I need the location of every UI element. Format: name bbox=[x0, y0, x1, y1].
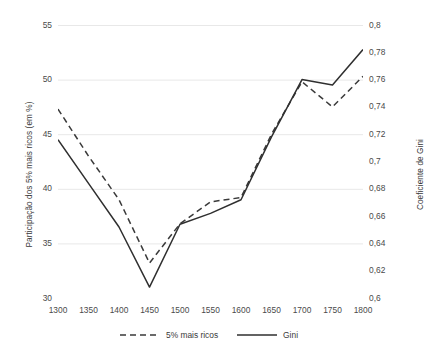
y-axis-left-tick-label: 40 bbox=[26, 183, 52, 193]
y-axis-right-tick-label: 0,62 bbox=[369, 265, 403, 275]
y-axis-left-tick-label: 45 bbox=[26, 129, 52, 139]
legend-label-5-mais-ricos: 5% mais ricos bbox=[166, 330, 218, 340]
gridlines bbox=[58, 26, 363, 299]
x-axis-tick-label: 1500 bbox=[163, 305, 197, 315]
y-axis-right-tick-label: 0,7 bbox=[369, 156, 403, 166]
legend-swatch-solid-icon bbox=[236, 330, 278, 340]
x-axis-tick-label: 1700 bbox=[285, 305, 319, 315]
legend-item-gini: Gini bbox=[236, 330, 298, 340]
y-axis-left-tick-label: 55 bbox=[26, 20, 52, 30]
y-axis-right-tick-label: 0,64 bbox=[369, 238, 403, 248]
legend-label-gini: Gini bbox=[283, 330, 298, 340]
y-axis-right-title: Coeficiente de Gini bbox=[416, 90, 425, 260]
x-axis-tick-label: 1750 bbox=[316, 305, 350, 315]
y-axis-right-tick-label: 0,72 bbox=[369, 129, 403, 139]
y-axis-left-title: Participação dos 5% mais ricos (em %) bbox=[25, 90, 34, 260]
y-axis-left-tick-label: 35 bbox=[26, 238, 52, 248]
y-axis-right-tick-label: 0,68 bbox=[369, 183, 403, 193]
series-line bbox=[58, 50, 363, 288]
plot-area bbox=[58, 25, 363, 298]
x-axis-tick-label: 1800 bbox=[346, 305, 380, 315]
y-axis-right-tick-label: 0,8 bbox=[369, 20, 403, 30]
x-axis-tick-label: 1600 bbox=[224, 305, 258, 315]
chart-svg bbox=[58, 25, 363, 298]
x-axis-tick-label: 1350 bbox=[72, 305, 106, 315]
x-axis-tick-label: 1400 bbox=[102, 305, 136, 315]
y-axis-right-tick-label: 0,66 bbox=[369, 211, 403, 221]
y-axis-left-tick-label: 30 bbox=[26, 293, 52, 303]
x-axis-tick-label: 1550 bbox=[194, 305, 228, 315]
data-series bbox=[58, 50, 363, 288]
y-axis-right-tick-label: 0,76 bbox=[369, 74, 403, 84]
x-axis-tick-label: 1450 bbox=[133, 305, 167, 315]
chart-legend: 5% mais ricos Gini bbox=[0, 330, 417, 340]
y-axis-right-tick-label: 0,6 bbox=[369, 293, 403, 303]
y-axis-left-tick-label: 50 bbox=[26, 74, 52, 84]
y-axis-right-tick-label: 0,74 bbox=[369, 101, 403, 111]
legend-swatch-dashed-icon bbox=[119, 330, 161, 340]
legend-item-5-mais-ricos: 5% mais ricos bbox=[119, 330, 218, 340]
x-axis-tick-label: 1650 bbox=[255, 305, 289, 315]
y-axis-right-tick-label: 0,78 bbox=[369, 47, 403, 57]
x-axis-tick-label: 1300 bbox=[41, 305, 75, 315]
series-line bbox=[58, 76, 363, 263]
